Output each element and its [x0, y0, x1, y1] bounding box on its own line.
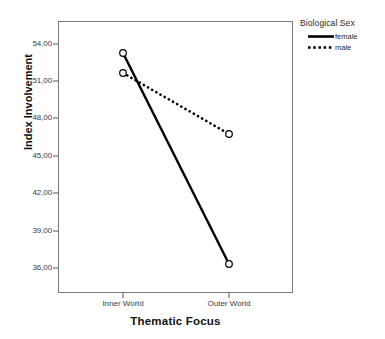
y-tick-label: 36,00: [32, 263, 52, 272]
legend-item-female: female: [307, 31, 384, 42]
y-tick-label: 51,00: [32, 76, 52, 85]
y-tick-label: 48,00: [32, 113, 52, 122]
x-axis-title: Thematic Focus: [58, 315, 293, 327]
y-axis-title: Index Involvement: [22, 22, 34, 182]
legend-swatch-dotted-line-icon: [307, 43, 335, 52]
legend-title: Biological Sex: [300, 18, 384, 28]
x-tick-label-outer-world: Outer World: [184, 299, 274, 308]
legend-label-male: male: [335, 43, 351, 52]
chart-figure: 54,00 51,00 48,00 45,00 42,00 39,00 36,0…: [0, 0, 385, 339]
legend-label-female: female: [335, 32, 358, 41]
legend-item-male: male: [307, 42, 384, 53]
legend: Biological Sex female male: [300, 18, 384, 53]
legend-swatch-solid-line-icon: [307, 32, 335, 41]
y-tick-label: 45,00: [32, 151, 52, 160]
y-tick-label: 39,00: [32, 226, 52, 235]
y-tick-label: 54,00: [32, 39, 52, 48]
y-tick-label: 42,00: [32, 188, 52, 197]
x-axis-ticks: [123, 293, 229, 298]
x-tick-label-inner-world: Inner World: [78, 299, 168, 308]
plot-area: [58, 21, 293, 293]
